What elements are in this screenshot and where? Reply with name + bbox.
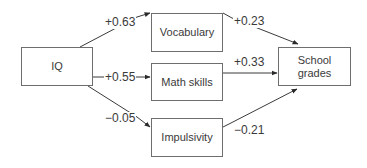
coef-vocabulary-school: +0.23 xyxy=(233,15,265,28)
node-school-grades: School grades xyxy=(278,47,351,86)
node-iq-label: IQ xyxy=(51,60,63,73)
node-school-label-line2: grades xyxy=(298,67,332,80)
coef-math-school: +0.33 xyxy=(233,56,265,69)
node-math-skills: Math skills xyxy=(151,63,223,101)
node-vocabulary: Vocabulary xyxy=(151,13,223,52)
node-impulsivity-label: Impulsivity xyxy=(161,131,212,144)
coef-iq-impulsivity: −0.05 xyxy=(104,112,136,125)
coef-impulsivity-school: −0.21 xyxy=(233,124,265,137)
node-math-label: Math skills xyxy=(161,76,212,89)
coef-iq-math: +0.55 xyxy=(104,71,136,84)
node-vocabulary-label: Vocabulary xyxy=(160,26,214,39)
node-iq: IQ xyxy=(21,47,93,86)
node-school-label-line1: School xyxy=(298,54,332,67)
node-impulsivity: Impulsivity xyxy=(151,118,223,157)
arrow-impulsivity-school xyxy=(223,89,297,127)
coef-iq-vocabulary: +0.63 xyxy=(104,16,136,29)
